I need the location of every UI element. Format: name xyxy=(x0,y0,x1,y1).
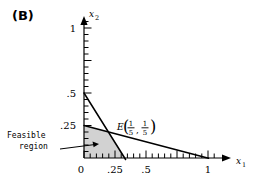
x-tick-label-025: .25 xyxy=(107,164,123,175)
figure-panel-b: (B) xyxy=(0,0,253,190)
x-axis-label-subscript: 1 xyxy=(242,161,246,169)
x-tick-label-05: .5 xyxy=(141,164,151,175)
y-tick-label-05: .5 xyxy=(66,88,76,99)
y-axis-label: x xyxy=(89,9,94,19)
vertex-e-label: E ( 1 5 , 1 5 ) xyxy=(116,117,156,137)
x-axis-arrowhead xyxy=(222,154,231,161)
vertex-e-frac2-denominator: 5 xyxy=(143,129,147,137)
feasible-region-label-line1: Feasible xyxy=(7,131,46,140)
vertex-e-frac1-denominator: 5 xyxy=(129,129,133,137)
x-tick-label-1: 1 xyxy=(205,164,211,175)
feasible-region-label-line2: region xyxy=(19,142,48,151)
vertex-e-comma: , xyxy=(136,125,139,135)
y-axis-label-subscript: 2 xyxy=(95,14,99,22)
vertex-e-close-paren: ) xyxy=(150,117,156,136)
x-tick-label-0: 0 xyxy=(78,164,84,175)
y-tick-label-025: .25 xyxy=(60,120,76,131)
feasible-region-plot: 0 .25 .5 1 1 .5 .25 x 1 x 2 E ( 1 5 , 1 … xyxy=(0,0,253,190)
y-tick-label-1: 1 xyxy=(70,23,76,34)
vertex-e-frac1-numerator: 1 xyxy=(129,120,133,128)
x-axis-label: x xyxy=(236,156,241,166)
y-axis-arrowhead xyxy=(80,16,87,25)
vertex-e-frac2-numerator: 1 xyxy=(143,120,147,128)
